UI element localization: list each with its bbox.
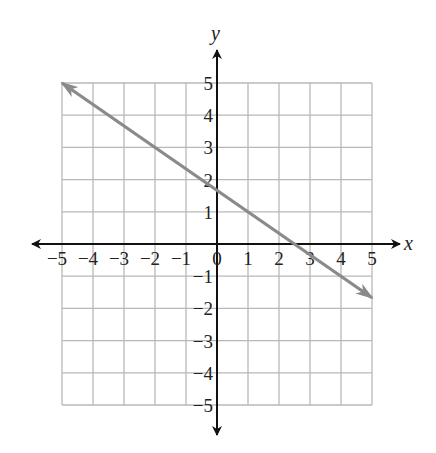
x-axis-label: x [403, 232, 413, 254]
x-tick-label: −5 [47, 248, 67, 269]
y-tick-label: −1 [193, 266, 213, 287]
x-tick-label: 2 [274, 248, 284, 269]
coordinate-plane: −5−4−3−2−101234554321−1−2−3−4−5 x y [0, 0, 436, 453]
y-tick-label: −4 [193, 363, 214, 384]
x-tick-label: 0 [212, 248, 222, 269]
x-tick-label: −1 [171, 248, 191, 269]
x-tick-label: −4 [78, 248, 99, 269]
x-tick-label: 4 [336, 248, 346, 269]
y-tick-label: −3 [193, 331, 213, 352]
x-tick-label: 5 [367, 248, 377, 269]
x-tick-label: 1 [243, 248, 253, 269]
y-tick-label: 3 [204, 137, 214, 158]
y-tick-label: 5 [204, 73, 214, 94]
y-tick-label: 4 [204, 105, 214, 126]
y-tick-label: 1 [204, 202, 214, 223]
axes [32, 50, 400, 435]
y-tick-label: −2 [193, 298, 213, 319]
x-tick-label: −3 [109, 248, 129, 269]
y-tick-label: −5 [193, 395, 213, 416]
y-axis-label: y [209, 22, 220, 45]
x-tick-label: −2 [140, 248, 160, 269]
